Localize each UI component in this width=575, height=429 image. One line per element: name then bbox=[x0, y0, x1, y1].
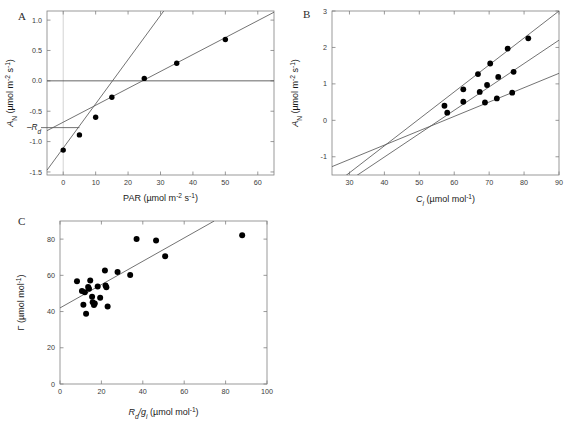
data-point bbox=[460, 99, 466, 105]
x-tick-label: 50 bbox=[221, 178, 229, 187]
x-tick-label: 40 bbox=[189, 178, 197, 187]
panel-a: A 0102030405060-1.5-1.0-0.50.00.51.0PAR … bbox=[0, 0, 290, 200]
data-point bbox=[61, 147, 66, 152]
panel-b: B 30405060708090-10123Ci (µmol mol-1)AN … bbox=[285, 0, 575, 200]
data-point bbox=[92, 301, 98, 307]
y-tick-label: 0.5 bbox=[32, 46, 42, 55]
x-tick-label: 20 bbox=[124, 178, 132, 187]
panel-b-plot: 30405060708090-10123Ci (µmol mol-1)AN (µ… bbox=[285, 0, 575, 200]
data-point bbox=[77, 132, 82, 137]
fit-line-low-light bbox=[332, 73, 559, 166]
plot-frame bbox=[47, 11, 274, 175]
x-tick-label: 20 bbox=[97, 387, 105, 396]
panel-a-y-axis-title: AN (µmol m-2 s-1) bbox=[4, 59, 18, 128]
x-tick-label: 60 bbox=[450, 178, 458, 187]
data-point bbox=[487, 61, 493, 67]
x-tick-label: 0 bbox=[61, 178, 65, 187]
y-tick-label: -1.5 bbox=[30, 168, 42, 177]
x-tick-label: 60 bbox=[254, 178, 262, 187]
y-tick-label: 0.0 bbox=[32, 76, 42, 85]
x-tick-label: 40 bbox=[139, 387, 147, 396]
data-point bbox=[162, 253, 168, 259]
y-tick-label: 2 bbox=[323, 43, 327, 52]
data-point bbox=[87, 277, 93, 283]
x-tick-label: 80 bbox=[222, 387, 230, 396]
data-point bbox=[509, 90, 515, 96]
data-point bbox=[83, 311, 89, 317]
panel-c-plot: 020406080100020406080Rd/gi (µmol mol-1)Γ… bbox=[10, 205, 300, 429]
x-tick-label: 70 bbox=[485, 178, 493, 187]
y-tick-label: -0.5 bbox=[30, 107, 42, 116]
y-tick-label: 3 bbox=[323, 7, 327, 16]
panel-c-data-layer bbox=[60, 221, 245, 317]
x-tick-label: 80 bbox=[520, 178, 528, 187]
data-point bbox=[174, 61, 179, 66]
panel-a-plot: 0102030405060-1.5-1.0-0.50.00.51.0PAR (µ… bbox=[0, 0, 290, 200]
data-point bbox=[460, 86, 466, 92]
panel-b-x-axis-title: Ci (µmol mol-1) bbox=[416, 193, 475, 207]
fit-line-medium-light bbox=[356, 40, 559, 176]
y-tick-label: -1 bbox=[321, 152, 327, 161]
data-point bbox=[484, 82, 490, 88]
data-point bbox=[505, 46, 511, 52]
panel-b-data-layer bbox=[332, 11, 559, 177]
x-tick-label: 10 bbox=[92, 178, 100, 187]
data-point bbox=[102, 268, 108, 274]
x-tick-label: 0 bbox=[58, 387, 62, 396]
fit-line-steep-initial-slope bbox=[47, 11, 164, 170]
data-point bbox=[495, 74, 501, 80]
x-tick-label: 50 bbox=[415, 178, 423, 187]
x-tick-label: 30 bbox=[345, 178, 353, 187]
y-tick-label: 40 bbox=[47, 307, 55, 316]
data-point bbox=[134, 236, 140, 242]
data-point bbox=[477, 89, 483, 95]
fit-line-shallow-saturating-fit bbox=[47, 12, 274, 130]
data-point bbox=[115, 269, 121, 275]
data-point bbox=[223, 37, 228, 42]
data-point bbox=[103, 284, 109, 290]
x-tick-label: 90 bbox=[555, 178, 563, 187]
data-point bbox=[93, 115, 98, 120]
data-point bbox=[80, 302, 86, 308]
fit-line-regression-line bbox=[60, 221, 214, 308]
data-point bbox=[97, 295, 103, 301]
data-point bbox=[142, 76, 147, 81]
y-tick-label: 0 bbox=[323, 116, 327, 125]
y-tick-label: 1 bbox=[323, 79, 327, 88]
data-point bbox=[86, 286, 92, 292]
data-point bbox=[444, 110, 450, 116]
data-point bbox=[109, 95, 114, 100]
data-point bbox=[95, 283, 101, 289]
data-point bbox=[475, 71, 481, 77]
panel-b-y-axis-title: AN (µmol m-2 s-1) bbox=[289, 59, 303, 128]
panel-a-x-axis-title: PAR (µmol m-2 s-1) bbox=[123, 192, 198, 204]
y-tick-label: 20 bbox=[47, 343, 55, 352]
y-tick-label: 60 bbox=[47, 271, 55, 280]
x-tick-label: 30 bbox=[157, 178, 165, 187]
data-point bbox=[442, 103, 448, 109]
plot-frame bbox=[332, 11, 559, 175]
data-point bbox=[511, 69, 517, 75]
x-tick-label: 40 bbox=[380, 178, 388, 187]
data-point bbox=[153, 237, 159, 243]
data-point bbox=[239, 232, 245, 238]
data-point bbox=[525, 35, 531, 41]
rd-annotation: –Rd bbox=[27, 123, 41, 135]
y-tick-label: 80 bbox=[47, 235, 55, 244]
figure-container: A 0102030405060-1.5-1.0-0.50.00.51.0PAR … bbox=[0, 0, 575, 429]
data-point bbox=[482, 100, 488, 106]
data-point bbox=[105, 303, 111, 309]
data-point bbox=[127, 272, 133, 278]
x-tick-label: 60 bbox=[180, 387, 188, 396]
y-tick-label: 0 bbox=[51, 380, 55, 389]
data-point bbox=[494, 96, 500, 102]
panel-c-y-axis-title: Γ (µmol mol-1) bbox=[15, 274, 27, 330]
y-tick-label: 1.0 bbox=[32, 16, 42, 25]
panel-c-x-axis-title: Rd/gi (µmol mol-1) bbox=[128, 406, 198, 420]
x-tick-label: 100 bbox=[261, 387, 273, 396]
data-point bbox=[74, 278, 80, 284]
panel-c: C 020406080100020406080Rd/gi (µmol mol-1… bbox=[10, 205, 300, 429]
data-point bbox=[89, 294, 95, 300]
y-tick-label: -1.0 bbox=[30, 137, 42, 146]
